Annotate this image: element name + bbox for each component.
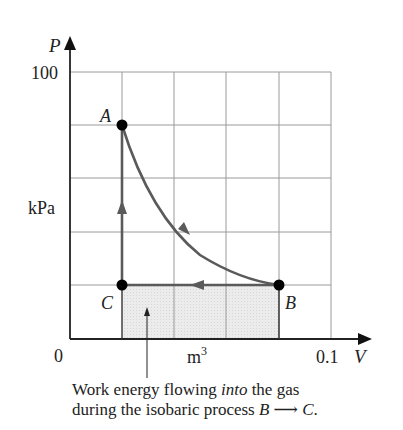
caption-line-2: during the isobaric process B ⟶ C.: [72, 400, 402, 420]
y-axis-label: P: [48, 35, 61, 56]
pv-diagram: P 100 kPa 0 m3 0.1 V A B C: [0, 0, 403, 430]
arrow-up-icon: [117, 200, 127, 214]
arrow-down-right-icon: [178, 222, 190, 235]
point-a-label: A: [99, 106, 112, 126]
process-a-to-b-curve: [122, 125, 279, 285]
x-axis-arrow-icon: [358, 333, 372, 345]
caption-text: during the isobaric process: [72, 400, 259, 419]
caption-emphasis: into: [221, 380, 247, 399]
caption-text: Work energy flowing: [72, 380, 221, 399]
caption-point-b: B: [259, 400, 269, 419]
x-axis-label: V: [354, 346, 368, 367]
caption-text: .: [314, 400, 318, 419]
point-c: [117, 280, 128, 291]
caption: Work energy flowing into the gas during …: [72, 380, 402, 420]
x-origin-label: 0: [54, 346, 63, 366]
y-unit-label: kPa: [28, 198, 55, 218]
y-axis-arrow-icon: [64, 36, 76, 50]
caption-text: the gas: [247, 380, 299, 399]
point-a: [117, 120, 128, 131]
point-c-label: C: [101, 293, 114, 313]
caption-line-1: Work energy flowing into the gas: [72, 380, 402, 400]
x-max-label: 0.1: [316, 347, 339, 367]
x-unit-label: m3: [187, 344, 207, 367]
caption-arrow: ⟶: [269, 400, 302, 419]
point-b-label: B: [285, 293, 296, 313]
point-b: [274, 280, 285, 291]
caption-point-c: C: [302, 400, 313, 419]
y-max-label: 100: [31, 63, 58, 83]
